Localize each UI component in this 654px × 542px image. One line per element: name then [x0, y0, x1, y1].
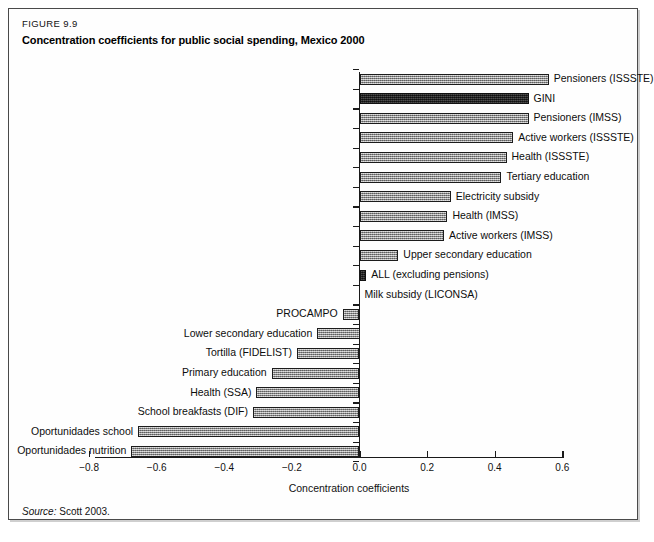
- bar: [253, 407, 359, 418]
- bar-label: Oportunidades school: [31, 426, 133, 437]
- x-axis-tick-label: 0.0: [336, 462, 384, 473]
- bar: [317, 328, 359, 339]
- bar: [297, 348, 360, 359]
- x-axis-tick-label: −0.6: [133, 462, 181, 473]
- bar-label: Health (SSA): [190, 387, 251, 398]
- x-axis-title: Concentration coefficients: [0, 482, 650, 494]
- y-axis-tick: [353, 442, 359, 443]
- bar: [360, 270, 367, 281]
- x-axis-tick: [360, 451, 361, 457]
- y-axis-tick: [353, 108, 359, 109]
- y-axis-tick: [353, 363, 359, 364]
- x-axis-tick-label: −0.2: [268, 462, 316, 473]
- source-text: Scott 2003.: [59, 506, 110, 517]
- bar-label: Electricity subsidy: [456, 191, 539, 202]
- x-axis-tick-label: −0.8: [65, 462, 113, 473]
- x-axis-tick-label: 0.6: [538, 462, 586, 473]
- bar-label: Upper secondary education: [403, 249, 531, 260]
- bar: [131, 446, 359, 457]
- bar: [256, 387, 359, 398]
- bar-label: Health (ISSSTE): [512, 151, 590, 162]
- bar: [360, 172, 502, 183]
- y-axis-tick: [353, 206, 359, 207]
- bar: [360, 74, 549, 85]
- source-label: Source:: [22, 506, 56, 517]
- x-axis-tick: [562, 451, 563, 457]
- bar-label: PROCAMPO: [276, 308, 337, 319]
- bar: [360, 113, 529, 124]
- bar-label: School breakfasts (DIF): [138, 406, 248, 417]
- y-axis-tick: [353, 89, 359, 90]
- bar-label: Active workers (IMSS): [449, 230, 553, 241]
- x-axis-tick-label: 0.2: [403, 462, 451, 473]
- y-axis-line: [359, 72, 360, 457]
- bar-label: Health (IMSS): [452, 210, 518, 221]
- bar: [360, 191, 451, 202]
- bar-label: GINI: [534, 93, 556, 104]
- y-axis-tick: [353, 128, 359, 129]
- bar-label: ALL (excluding pensions): [371, 269, 489, 280]
- y-axis-tick: [353, 226, 359, 227]
- bar-label: Lower secondary education: [184, 328, 312, 339]
- bar: [272, 368, 360, 379]
- bar: [360, 230, 445, 241]
- y-axis-tick: [353, 324, 359, 325]
- y-axis-tick: [353, 187, 359, 188]
- bar: [343, 309, 360, 320]
- x-axis-tick: [495, 451, 496, 457]
- y-axis-tick: [353, 422, 359, 423]
- source-note: Source: Scott 2003.: [22, 506, 110, 517]
- y-axis-tick: [353, 304, 359, 305]
- bar: [360, 132, 514, 143]
- bar: [360, 250, 399, 261]
- y-axis-tick: [353, 344, 359, 345]
- y-axis-tick: [353, 402, 359, 403]
- bar: [360, 211, 448, 222]
- bar-label: Pensioners (IMSS): [534, 112, 622, 123]
- bar-label: Oportunidades nutrition: [17, 445, 126, 456]
- bar: [360, 93, 529, 104]
- y-axis-tick: [353, 148, 359, 149]
- bar: [138, 426, 359, 437]
- x-axis-line: [95, 457, 564, 458]
- x-axis-tick-label: −0.4: [200, 462, 248, 473]
- y-axis-tick: [353, 383, 359, 384]
- y-axis-tick: [353, 69, 359, 70]
- bar-label: Active workers (ISSSTE): [518, 132, 634, 143]
- y-axis-tick: [353, 285, 359, 286]
- y-axis-tick: [353, 246, 359, 247]
- bar-label: Primary education: [182, 367, 267, 378]
- x-axis-tick: [427, 451, 428, 457]
- bar-label: Tortilla (FIDELIST): [206, 347, 292, 358]
- bar-label: Pensioners (ISSSTE): [554, 73, 654, 84]
- y-axis-tick: [353, 265, 359, 266]
- x-axis-tick-label: 0.4: [471, 462, 519, 473]
- bar-label: Milk subsidy (LICONSA): [365, 289, 478, 300]
- bar-label: Tertiary education: [506, 171, 589, 182]
- y-axis-tick: [353, 167, 359, 168]
- bar: [360, 152, 507, 163]
